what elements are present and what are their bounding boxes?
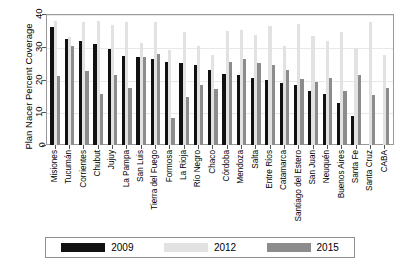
x-axis-label-cell: Corrientes — [77, 150, 91, 228]
bar-2015 — [257, 63, 260, 145]
x-axis-label-cell: San Luis — [134, 150, 148, 228]
bar-group — [191, 14, 205, 145]
bar-2015 — [114, 75, 117, 145]
x-axis-label: San Juan — [309, 150, 317, 185]
bar-group — [363, 14, 377, 145]
chart-legend: 200920122015 — [45, 237, 355, 258]
bar-2015 — [243, 59, 246, 145]
legend-entry-2012: 2012 — [149, 242, 252, 253]
x-axis-tickmark — [249, 145, 263, 149]
bar-group — [277, 14, 291, 145]
x-axis-label-cell: Río Negro — [191, 150, 205, 228]
x-axis-tickmark — [363, 145, 377, 149]
x-axis-label-cell: Santa Cruz — [363, 150, 377, 228]
x-axis-label-cell: Jujuy — [105, 150, 119, 228]
x-axis-label: La Rioja — [180, 150, 188, 180]
bar-2015 — [229, 62, 232, 145]
x-axis-tickmark — [134, 145, 148, 149]
x-axis-label-cell: Formosa — [163, 150, 177, 228]
bar-2015 — [171, 118, 174, 145]
x-axis-label: Corrientes — [80, 150, 88, 188]
legend-label: 2015 — [317, 242, 339, 253]
x-axis-label-cell: Catamarca — [277, 150, 291, 228]
legend-swatch — [61, 243, 105, 252]
bar-group — [249, 14, 263, 145]
legend-swatch — [164, 243, 208, 252]
x-axis-label: Chubut — [94, 150, 102, 176]
x-axis-tickmark — [320, 145, 334, 149]
x-axis-label: Catamarca — [280, 150, 288, 190]
x-axis-label-cell: Santiago del Estero — [292, 150, 306, 228]
bar-2015 — [343, 91, 346, 145]
x-axis-tickmark — [148, 145, 162, 149]
bar-2015 — [272, 65, 275, 145]
bar-2015 — [85, 71, 88, 145]
bar-group — [48, 14, 62, 145]
x-axis-tickmark — [292, 145, 306, 149]
bar-group — [306, 14, 320, 145]
x-axis-tickmark — [277, 145, 291, 149]
bar-group — [163, 14, 177, 145]
x-axis-label: Santa Cruz — [366, 150, 374, 191]
x-axis-tickmark — [120, 145, 134, 149]
bar-2015 — [372, 95, 375, 145]
bar-group — [234, 14, 248, 145]
bar-2015 — [300, 79, 303, 145]
bar-group — [206, 14, 220, 145]
x-axis-label-cell: Mendoza — [234, 150, 248, 228]
bar-2015 — [57, 76, 60, 145]
x-axis-label: Formosa — [166, 150, 174, 182]
x-axis-label-cell: Neuquén — [320, 150, 334, 228]
x-axis-label: Chaco — [209, 150, 217, 174]
x-axis-tickmark — [163, 145, 177, 149]
bar-group — [378, 14, 392, 145]
x-axis-tickmark — [349, 145, 363, 149]
x-axis-label: Santa Fe — [352, 150, 360, 183]
x-axis-label: Salta — [252, 150, 260, 169]
bar-2015 — [200, 85, 203, 145]
x-axis-label: Tierra del Fuego — [151, 150, 159, 210]
bar-2015 — [214, 89, 217, 145]
x-axis-tickmark — [378, 145, 392, 149]
x-axis-tickmark — [91, 145, 105, 149]
bar-2015 — [100, 94, 103, 145]
x-axis-label: Río Negro — [194, 150, 202, 187]
bar-group — [91, 14, 105, 145]
bar-group — [177, 14, 191, 145]
x-axis-label-cell: Santa Fe — [349, 150, 363, 228]
x-axis-label: Misiones — [51, 150, 59, 182]
bar-group — [320, 14, 334, 145]
x-axis-tickmark — [234, 145, 248, 149]
bar-2015 — [358, 75, 361, 145]
bar-group — [105, 14, 119, 145]
bar-group — [148, 14, 162, 145]
x-axis-labels: MisionesTucumánCorrientesChubutJujuyLa P… — [46, 150, 394, 228]
x-axis-tickmark — [206, 145, 220, 149]
x-axis-label-cell: La Rioja — [177, 150, 191, 228]
bar-group — [77, 14, 91, 145]
bar-groups — [46, 14, 394, 145]
x-axis-tickmark — [77, 145, 91, 149]
x-axis-label: Buenos Aires — [338, 150, 346, 198]
x-axis-tickmark — [306, 145, 320, 149]
bar-2015 — [315, 82, 318, 145]
bar-group — [134, 14, 148, 145]
bar-chart-figure: Plan Nacer Percent Coverage 010203040 Mi… — [0, 0, 402, 269]
x-axis-tickmark — [177, 145, 191, 149]
x-axis-label: Santiago del Estero — [295, 150, 303, 221]
bar-group — [120, 14, 134, 145]
legend-swatch — [267, 243, 311, 252]
x-axis-label-cell: Chubut — [91, 150, 105, 228]
legend-label: 2012 — [214, 242, 236, 253]
bar-group — [62, 14, 76, 145]
x-axis-label: CABA — [381, 150, 389, 172]
x-axis-label-cell: San Juan — [306, 150, 320, 228]
bar-2015 — [143, 57, 146, 145]
x-axis-label-cell: Entre Ríos — [263, 150, 277, 228]
x-axis-label: Mendoza — [237, 150, 245, 184]
legend-entry-2015: 2015 — [251, 242, 354, 253]
x-axis-label-cell: Córdoba — [220, 150, 234, 228]
x-axis-tickmarks — [46, 145, 394, 149]
x-axis-label: Tucumán — [65, 150, 73, 184]
legend-entry-2009: 2009 — [46, 242, 149, 253]
